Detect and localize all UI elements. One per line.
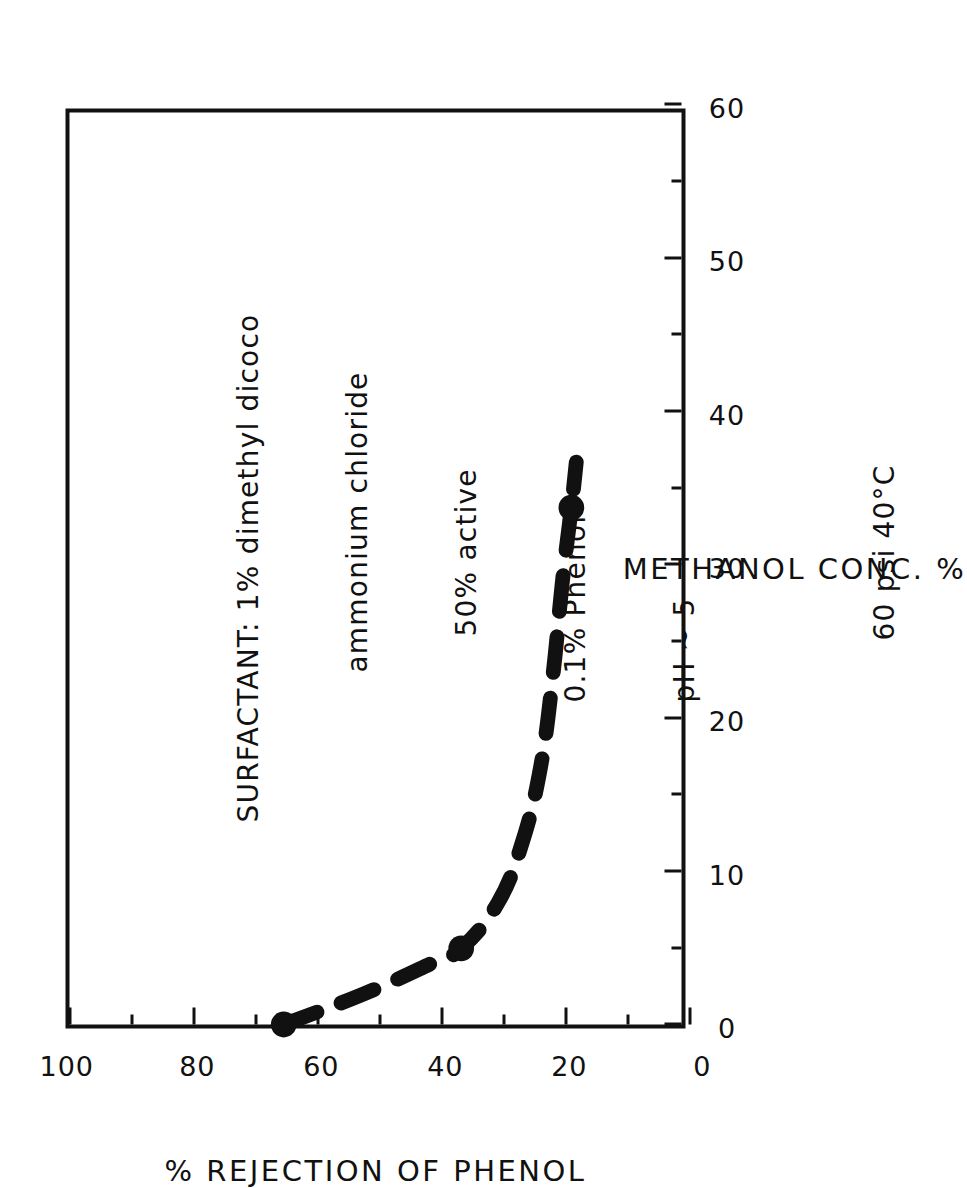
y-tick-20 — [564, 1008, 567, 1025]
figure-chart: 0102030405060 020406080100 METHANOL CONC… — [8, 63, 743, 1073]
x-tick-label-60: 60 — [709, 93, 745, 124]
annotation-spacer — [776, 314, 794, 823]
y-tick-label-20: 20 — [536, 1051, 588, 1082]
annotation-line-6: 60 psi 40°C — [867, 314, 903, 823]
y-tick-50 — [378, 1015, 381, 1025]
x-tick-label-50: 50 — [709, 246, 745, 277]
y-tick-100 — [68, 1008, 71, 1025]
y-tick-label-40: 40 — [412, 1051, 464, 1082]
x-tick-55 — [672, 180, 682, 183]
annotation-line-3: 50% active — [449, 314, 485, 823]
y-tick-80 — [192, 1008, 195, 1025]
data-point-0-65 — [271, 1012, 297, 1038]
y-tick-label-100: 100 — [40, 1051, 92, 1082]
x-tick-10 — [665, 870, 682, 873]
x-tick-label-0: 0 — [718, 1013, 736, 1044]
y-tick-label-0: 0 — [660, 1051, 712, 1082]
y-tick-10 — [626, 1015, 629, 1025]
x-tick-label-10: 10 — [709, 860, 745, 891]
annotation-line-5: pH ~ 5 — [667, 314, 703, 823]
y-tick-30 — [502, 1015, 505, 1025]
annotation-line-4: 0.1% Phenol — [558, 314, 594, 823]
x-tick-5 — [672, 946, 682, 949]
y-tick-label-60: 60 — [288, 1051, 340, 1082]
x-tick-0 — [665, 1023, 682, 1026]
data-point-5-36 — [448, 936, 474, 962]
annotation-line-2: ammonium chloride — [339, 314, 375, 823]
y-tick-90 — [130, 1015, 133, 1025]
y-tick-label-80: 80 — [164, 1051, 216, 1082]
x-tick-50 — [665, 256, 682, 259]
annotation-line-1: SURFACTANT: 1% dimethyl dicoco — [230, 314, 266, 823]
y-tick-60 — [316, 1008, 319, 1025]
y-tick-40 — [440, 1008, 443, 1025]
y-tick-70 — [254, 1015, 257, 1025]
x-tick-60 — [665, 103, 682, 106]
y-axis-title: % REJECTION OF PHENOL — [165, 1154, 587, 1188]
plot-annotation: SURFACTANT: 1% dimethyl dicoco ammonium … — [158, 314, 967, 823]
y-tick-0 — [688, 1008, 691, 1025]
